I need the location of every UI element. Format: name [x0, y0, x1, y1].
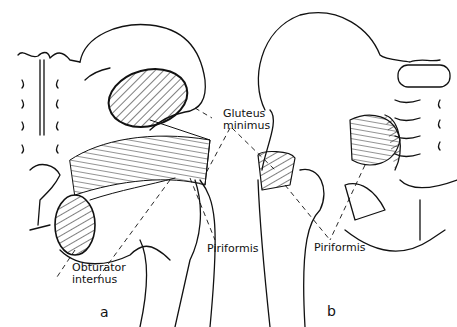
- label-obturator-line2: internus: [72, 274, 126, 286]
- panel-label-b: b: [327, 303, 336, 319]
- label-gluteus-line2: minimus: [223, 120, 270, 132]
- label-gluteus-minimus: Gluteus minimus: [223, 108, 270, 132]
- femur-b: [258, 180, 270, 327]
- obturator-internus-a: [55, 195, 95, 255]
- ilium-b: [258, 13, 440, 110]
- label-piriformis-a: Piriformis: [207, 243, 258, 255]
- gluteus-minimus-a: [102, 61, 194, 136]
- gluteus-minimus-b: [258, 152, 295, 190]
- anatomy-illustration: [0, 0, 457, 327]
- label-obturator-internus: Obturator internus: [72, 262, 126, 286]
- panel-label-a: a: [100, 304, 109, 320]
- femur-a: [175, 180, 200, 327]
- label-piriformis-b: Piriformis: [314, 242, 365, 254]
- sacral-body-b: [398, 65, 450, 87]
